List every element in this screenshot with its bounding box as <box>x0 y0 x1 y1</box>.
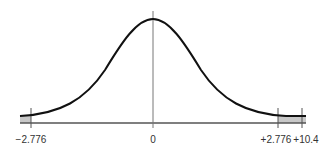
label-test-statistic: +10.4 <box>293 134 318 145</box>
density-curve <box>20 19 306 116</box>
t-distribution-chart <box>0 0 330 153</box>
label-right-critical: +2.776 <box>261 134 292 145</box>
label-left-critical: −2.776 <box>16 134 47 145</box>
label-center: 0 <box>150 134 156 145</box>
left-tail-shade <box>20 116 31 123</box>
